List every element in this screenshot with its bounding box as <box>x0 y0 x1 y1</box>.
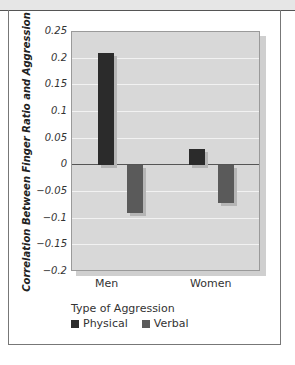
legend-label-physical: Physical <box>83 317 128 330</box>
y-tick-label: 0.1 <box>7 106 67 116</box>
y-tick-label: −0.05 <box>7 186 67 196</box>
legend-title: Type of Aggression <box>71 302 175 315</box>
y-tick-label: −0.2 <box>7 266 67 276</box>
y-tick-label: 0.15 <box>7 79 67 89</box>
y-tick-label: 0.05 <box>7 133 67 143</box>
gridline <box>72 244 259 245</box>
plot-area <box>71 31 260 271</box>
legend-item-verbal: Verbal <box>142 317 189 330</box>
legend-swatch-physical <box>71 320 79 328</box>
bar-verbal-men <box>127 165 143 213</box>
legend-label-verbal: Verbal <box>154 317 189 330</box>
y-tick-label: 0.25 <box>7 26 67 36</box>
bar-physical-men <box>98 53 114 165</box>
x-category-women: Women <box>190 277 231 290</box>
y-tick-label: 0.2 <box>7 53 67 63</box>
y-tick-label: −0.15 <box>7 239 67 249</box>
x-category-men: Men <box>95 277 118 290</box>
legend-swatch-verbal <box>142 320 150 328</box>
legend: Physical Verbal <box>71 317 203 330</box>
legend-item-physical: Physical <box>71 317 128 330</box>
y-tick-label: −0.1 <box>7 213 67 223</box>
bar-verbal-women <box>218 165 234 202</box>
bar-physical-women <box>189 149 205 165</box>
y-tick-label: 0 <box>7 159 67 169</box>
gridline <box>72 218 259 219</box>
